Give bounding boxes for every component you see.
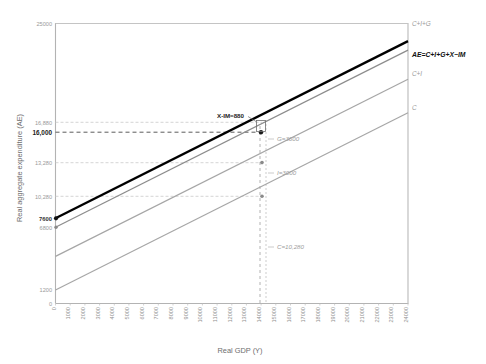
series-label-c-plus-i-plus-g: C+I+G	[412, 20, 431, 27]
y-tick-16880: 16,880	[35, 120, 52, 126]
x-tick-9000: 9000	[183, 307, 189, 319]
x-tick-5000: 5000	[124, 307, 130, 319]
x-tick-19000: 19000	[330, 307, 336, 323]
x-tick-6000: 6000	[139, 307, 145, 319]
x-tick-8000: 8000	[168, 307, 174, 319]
chart-svg: 25000 16,880 16,000 13,280 10,280 7600 6…	[0, 0, 486, 364]
y-tick-13280: 13,280	[35, 160, 52, 166]
annotation-leaders	[268, 139, 274, 247]
x-tick-18000: 18000	[315, 307, 321, 323]
x-tick-21000: 21000	[359, 307, 365, 323]
y-tick-6800: 6800	[40, 225, 52, 231]
x-tick-24000: 24000	[403, 307, 409, 323]
x-tick-20000: 20000	[344, 307, 350, 323]
x-tick-13000: 13000	[241, 307, 247, 323]
series-label-ae: AE=C+I+G+X−IM	[411, 51, 466, 58]
x-tick-10000: 10000	[197, 307, 203, 323]
x-tick-4000: 4000	[109, 307, 115, 319]
x-tick-17000: 17000	[300, 307, 306, 323]
x-tick-7000: 7000	[153, 307, 159, 319]
y-axis-title: Real aggregate expenditure (AE)	[15, 114, 24, 222]
y-tick-7600: 7600	[39, 216, 52, 222]
y-tick-0: 0	[49, 301, 52, 307]
markers	[54, 130, 264, 229]
x-tick-23000: 23000	[388, 307, 394, 323]
x-tick-12000: 12000	[227, 307, 233, 323]
x-tick-labels: 0100020003000400050006000700080009000100…	[51, 304, 410, 323]
x-tick-3000: 3000	[95, 307, 101, 319]
horizontal-guides	[56, 122, 263, 196]
line-c-plus-i-plus-g	[56, 50, 409, 227]
line-c	[56, 113, 409, 290]
x-axis-title: Real GDP (Y)	[217, 346, 262, 355]
x-tick-0: 0	[51, 307, 57, 310]
x-tick-14000: 14000	[256, 307, 262, 323]
y-tick-labels: 25000 16,880 16,000 13,280 10,280 7600 6…	[32, 21, 52, 307]
y-tick-25000: 25000	[36, 21, 52, 27]
y-tick-16000: 16,000	[32, 129, 52, 137]
annotation-x-im: X-IM=880	[217, 112, 245, 119]
x-tick-2000: 2000	[80, 307, 86, 319]
y-tick-1200: 1200	[40, 287, 52, 293]
line-ae	[56, 41, 409, 218]
x-tick-16000: 16000	[286, 307, 292, 323]
annotation-c: C=10,280	[277, 243, 305, 250]
aggregate-expenditure-chart: 25000 16,880 16,000 13,280 10,280 7600 6…	[0, 0, 486, 364]
series-lines	[56, 41, 409, 290]
x-tick-1000: 1000	[65, 307, 71, 319]
series-label-c-plus-i: C+I	[412, 70, 422, 77]
vertical-guides	[260, 120, 266, 303]
x-tick-15000: 15000	[271, 307, 277, 323]
series-label-c: C	[412, 104, 417, 111]
annotation-g: G=3600	[277, 135, 300, 142]
line-c-plus-i	[56, 79, 409, 256]
x-tick-11000: 11000	[212, 307, 218, 322]
plot-axes	[56, 23, 409, 304]
x-tick-22000: 22000	[374, 307, 380, 323]
annotation-i: I=3000	[277, 169, 297, 176]
y-tick-10280: 10,280	[35, 194, 52, 200]
